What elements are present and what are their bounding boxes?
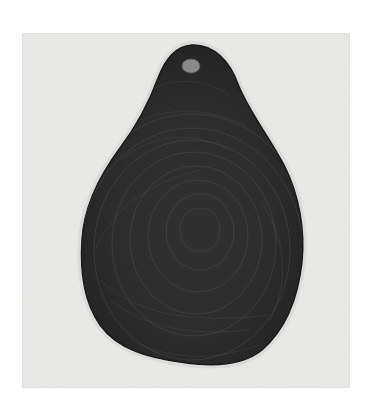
etching-image — [0, 0, 375, 415]
hole — [182, 59, 200, 73]
artwork — [0, 0, 375, 415]
